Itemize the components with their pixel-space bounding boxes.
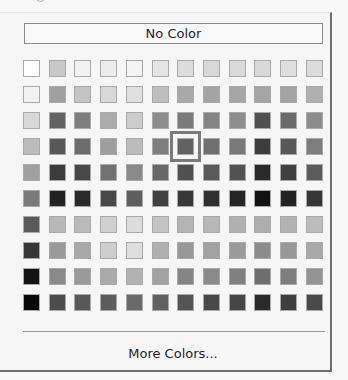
color-swatch[interactable] [203,164,220,181]
color-swatch[interactable] [280,138,297,155]
color-swatch[interactable] [74,112,91,129]
color-swatch[interactable] [74,164,91,181]
more-colors-button[interactable]: More Colors... [20,341,326,367]
color-swatch[interactable] [74,216,91,233]
color-swatch[interactable] [49,216,66,233]
color-swatch[interactable] [23,268,40,285]
color-swatch[interactable] [254,190,271,207]
color-swatch[interactable] [177,164,194,181]
color-swatch[interactable] [152,86,169,103]
color-swatch[interactable] [49,112,66,129]
color-swatch[interactable] [152,242,169,259]
color-swatch[interactable] [74,138,91,155]
color-swatch[interactable] [100,60,117,77]
color-swatch[interactable] [126,112,143,129]
color-swatch[interactable] [306,294,323,311]
color-swatch[interactable] [74,242,91,259]
color-swatch[interactable] [280,216,297,233]
color-swatch[interactable] [49,294,66,311]
color-swatch[interactable] [177,190,194,207]
color-swatch[interactable] [126,164,143,181]
color-swatch[interactable] [280,60,297,77]
color-swatch[interactable] [23,138,40,155]
color-swatch[interactable] [280,190,297,207]
color-swatch[interactable] [126,216,143,233]
color-swatch[interactable] [254,242,271,259]
color-swatch[interactable] [152,216,169,233]
color-swatch[interactable] [229,86,246,103]
color-swatch[interactable] [254,294,271,311]
color-swatch[interactable] [49,190,66,207]
color-swatch[interactable] [23,112,40,129]
color-swatch[interactable] [49,164,66,181]
color-swatch[interactable] [23,60,40,77]
color-swatch[interactable] [100,268,117,285]
color-swatch[interactable] [152,268,169,285]
color-swatch[interactable] [49,242,66,259]
color-swatch[interactable] [306,216,323,233]
color-swatch[interactable] [152,190,169,207]
color-swatch[interactable] [74,268,91,285]
color-swatch[interactable] [306,138,323,155]
color-swatch[interactable] [306,60,323,77]
color-swatch[interactable] [152,60,169,77]
color-swatch[interactable] [152,164,169,181]
color-swatch[interactable] [49,138,66,155]
color-swatch[interactable] [280,86,297,103]
color-swatch[interactable] [23,294,40,311]
color-swatch[interactable] [229,268,246,285]
color-swatch[interactable] [100,86,117,103]
color-swatch[interactable] [177,216,194,233]
color-swatch[interactable] [229,294,246,311]
color-swatch[interactable] [203,60,220,77]
color-swatch[interactable] [229,164,246,181]
color-swatch[interactable] [23,242,40,259]
color-swatch[interactable] [100,138,117,155]
color-swatch[interactable] [280,242,297,259]
color-swatch[interactable] [203,138,220,155]
color-swatch[interactable] [126,268,143,285]
color-swatch[interactable] [306,242,323,259]
color-swatch[interactable] [280,268,297,285]
color-swatch[interactable] [203,242,220,259]
color-swatch[interactable] [254,60,271,77]
color-swatch[interactable] [306,86,323,103]
color-swatch[interactable] [23,164,40,181]
color-swatch[interactable] [203,294,220,311]
color-swatch[interactable] [254,112,271,129]
color-swatch[interactable] [306,164,323,181]
color-swatch[interactable] [280,112,297,129]
color-swatch[interactable] [306,190,323,207]
color-swatch[interactable] [23,86,40,103]
no-color-button[interactable]: No Color [24,23,323,44]
color-swatch[interactable] [203,112,220,129]
color-swatch[interactable] [126,190,143,207]
color-swatch[interactable] [100,294,117,311]
color-swatch[interactable] [126,86,143,103]
color-swatch[interactable] [126,138,143,155]
color-swatch[interactable] [152,138,169,155]
color-swatch[interactable] [126,294,143,311]
color-swatch[interactable] [177,86,194,103]
color-swatch[interactable] [74,60,91,77]
color-swatch[interactable] [254,164,271,181]
color-swatch[interactable] [177,242,194,259]
color-swatch[interactable] [280,294,297,311]
color-swatch[interactable] [74,294,91,311]
color-swatch[interactable] [229,242,246,259]
color-swatch[interactable] [100,242,117,259]
color-swatch[interactable] [126,242,143,259]
color-swatch[interactable] [100,112,117,129]
color-swatch[interactable] [152,112,169,129]
color-swatch[interactable] [177,112,194,129]
color-swatch[interactable] [306,268,323,285]
color-swatch[interactable] [177,294,194,311]
color-swatch[interactable] [254,216,271,233]
color-swatch[interactable] [229,138,246,155]
color-swatch[interactable] [100,216,117,233]
color-swatch[interactable] [229,190,246,207]
color-swatch[interactable] [280,164,297,181]
color-swatch[interactable] [152,294,169,311]
color-swatch[interactable] [100,190,117,207]
color-swatch[interactable] [100,164,117,181]
